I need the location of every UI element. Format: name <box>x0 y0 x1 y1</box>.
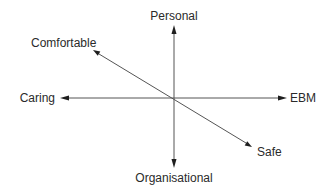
label-comfortable: Comfortable <box>31 36 97 50</box>
label-caring: Caring <box>20 91 55 105</box>
arrow-up-left-icon <box>93 50 100 56</box>
vertical-axis <box>172 25 177 168</box>
label-organisational: Organisational <box>135 171 212 185</box>
arrow-left-icon <box>60 96 69 101</box>
axes-diagram: Personal Organisational Caring EBM Comfo… <box>0 0 333 191</box>
label-safe: Safe <box>257 145 282 159</box>
arrow-down-icon <box>172 159 177 168</box>
diagram-canvas: Personal Organisational Caring EBM Comfo… <box>0 0 333 191</box>
arrow-right-icon <box>278 96 287 101</box>
arrow-up-icon <box>172 25 177 34</box>
label-personal: Personal <box>150 9 197 23</box>
label-ebm: EBM <box>290 91 316 105</box>
arrow-down-right-icon <box>245 141 252 147</box>
